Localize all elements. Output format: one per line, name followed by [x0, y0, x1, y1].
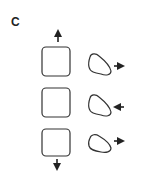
crescent-cell-2 — [89, 95, 111, 116]
crescent-cell-3 — [89, 135, 111, 153]
square-cell-2 — [42, 88, 70, 117]
diagram-canvas — [0, 0, 146, 178]
square-cell-1 — [42, 47, 70, 76]
crescent-cell-1 — [89, 54, 111, 75]
square-cell-3 — [42, 129, 70, 156]
